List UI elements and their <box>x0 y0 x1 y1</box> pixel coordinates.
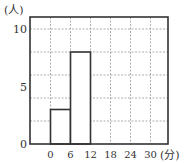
x-tick-label: 0 <box>47 149 53 160</box>
x-axis-label: (分) <box>160 149 180 162</box>
chart-canvas: 0510 0612182430 (人) (分) <box>0 0 190 163</box>
y-tick-label: 0 <box>20 138 27 151</box>
x-tick-label: 12 <box>84 149 97 160</box>
y-axis-label: (人) <box>4 4 24 17</box>
x-tick-label: 30 <box>144 149 157 160</box>
y-tick-label: 10 <box>13 23 27 36</box>
histogram-chart: 0510 0612182430 (人) (分) <box>0 0 190 163</box>
y-tick-label: 5 <box>20 81 27 94</box>
x-tick-label: 6 <box>67 149 73 160</box>
histogram-bar <box>71 52 91 144</box>
x-tick-label: 24 <box>124 149 137 160</box>
histogram-bar <box>51 110 71 145</box>
y-axis-tick-labels: 0510 <box>13 23 27 151</box>
x-axis-tick-labels: 0612182430 <box>47 149 157 160</box>
x-tick-label: 18 <box>104 149 117 160</box>
